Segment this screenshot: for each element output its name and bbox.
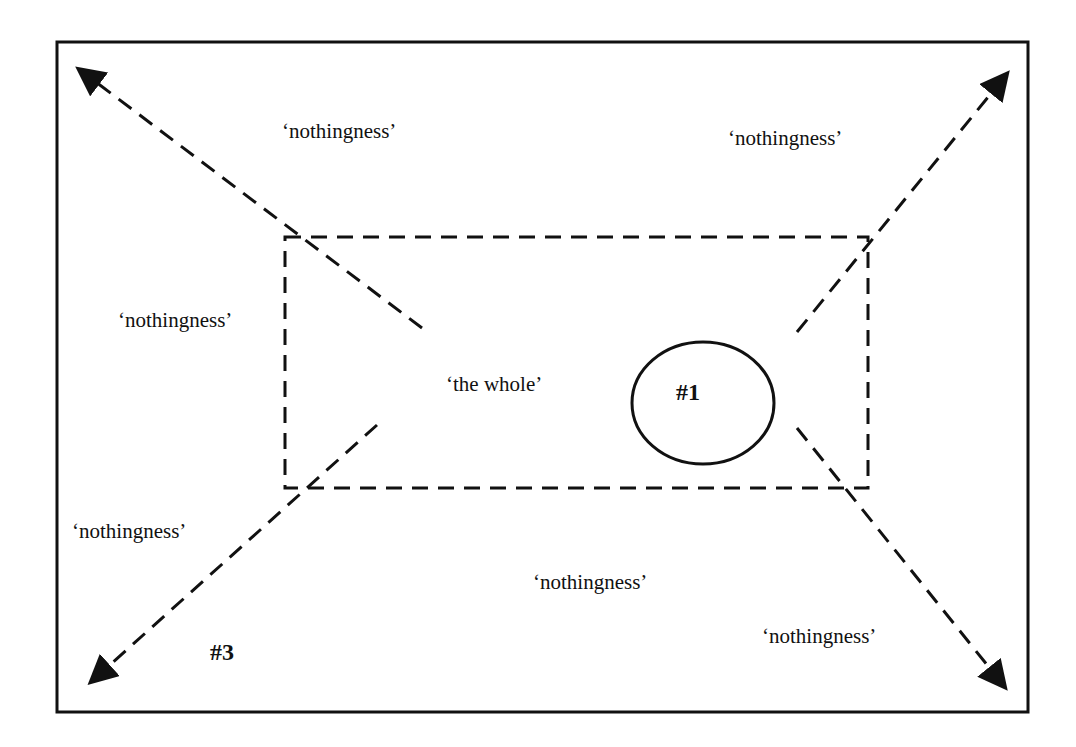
nothingness-label-mid-left: ‘nothingness’: [118, 310, 232, 331]
the-whole-box: [285, 237, 868, 488]
arrow-top-right-icon: [797, 75, 1006, 332]
marker-1-label: #1: [676, 380, 700, 404]
nothingness-label-bottom-right: ‘nothingness’: [762, 626, 876, 647]
arrow-bottom-left-icon: [92, 425, 377, 681]
the-whole-label: ‘the whole’: [446, 374, 542, 395]
marker-3-label: #3: [210, 640, 234, 664]
nothingness-label-top-left: ‘nothingness’: [282, 121, 396, 142]
nothingness-label-top-right: ‘nothingness’: [728, 128, 842, 149]
arrow-top-left-icon: [80, 70, 422, 328]
nothingness-label-low-left: ‘nothingness’: [72, 521, 186, 542]
nothingness-label-bottom-center: ‘nothingness’: [533, 572, 647, 593]
outer-frame: [57, 42, 1028, 712]
circle-1: [632, 342, 774, 464]
